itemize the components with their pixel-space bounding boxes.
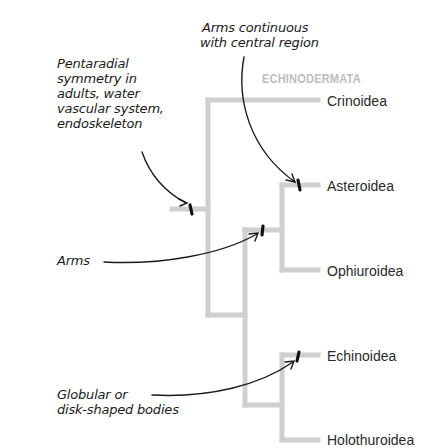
annotation-arms: Arms — [57, 253, 90, 268]
annotation-line: Globular or — [57, 387, 179, 402]
taxon-crinoidea: Crinoidea — [327, 93, 387, 109]
taxon-asteroidea: Asteroidea — [327, 178, 394, 194]
annotation-globular: Globular or disk-shaped bodies — [57, 387, 179, 417]
mark-arms-continuous — [298, 180, 300, 190]
annotation-arms-continuous: Arms continuous with central region — [200, 20, 319, 50]
mark-globular — [297, 352, 299, 361]
annotation-line: Pentaradial — [57, 56, 164, 71]
annotation-line: symmetry in — [57, 71, 164, 86]
annotation-line: adults, water — [57, 86, 164, 101]
arrowhead-pentaradial — [179, 199, 187, 206]
taxon-holothuroidea: Holothuroidea — [327, 432, 414, 448]
tree-branches — [172, 100, 318, 440]
annotation-line: with central region — [200, 35, 319, 50]
arrow-pentaradial — [142, 152, 186, 203]
arrow-arms — [104, 234, 257, 263]
mark-arms — [262, 226, 263, 235]
annotation-line: endoskeleton — [57, 116, 164, 131]
annotation-line: vascular system, — [57, 101, 164, 116]
annotation-pentaradial: Pentaradial symmetry in adults, water va… — [57, 56, 164, 131]
taxon-echinoidea: Echinoidea — [327, 348, 396, 364]
group-label: ECHINODERMATA — [262, 71, 361, 86]
annotation-line: disk-shaped bodies — [57, 402, 179, 417]
mark-pentaradial — [190, 205, 192, 214]
taxon-ophiuroidea: Ophiuroidea — [327, 263, 403, 279]
annotation-line: Arms continuous — [200, 20, 319, 35]
